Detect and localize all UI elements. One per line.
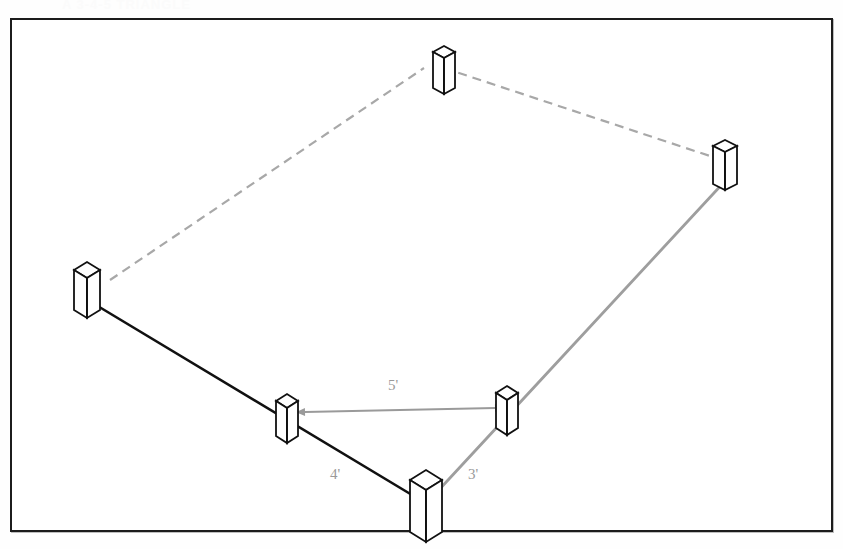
page-root: A 3-4-5 TRIANGLE: [0, 0, 843, 549]
dimension-label-leg-short: 3': [468, 466, 478, 483]
dimension-label-leg-long: 4': [330, 466, 340, 483]
clipped-page-heading: A 3-4-5 TRIANGLE: [62, 0, 191, 12]
dimension-label-hypotenuse: 5': [388, 377, 398, 394]
figure-frame: [10, 18, 833, 532]
